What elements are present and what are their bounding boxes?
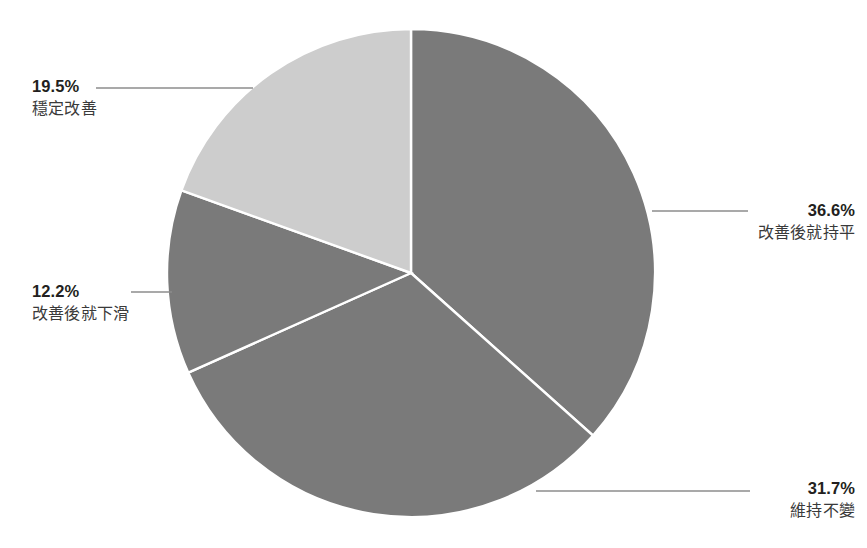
pie-chart: 19.5% 穩定改善 12.2% 改善後就下滑 36.6% 改善後就持平 31.… bbox=[0, 0, 867, 548]
callout-stable-label: 穩定改善 bbox=[32, 99, 97, 119]
callout-decline-percent: 12.2% bbox=[32, 281, 129, 302]
callout-unchanged-percent: 31.7% bbox=[790, 478, 855, 499]
callout-decline: 12.2% 改善後就下滑 bbox=[32, 281, 129, 325]
callout-plateau: 36.6% 改善後就持平 bbox=[758, 200, 855, 244]
callout-stable-percent: 19.5% bbox=[32, 76, 97, 97]
callout-plateau-percent: 36.6% bbox=[758, 200, 855, 221]
callout-unchanged-label: 維持不變 bbox=[790, 501, 855, 521]
pie-slices bbox=[167, 29, 655, 517]
callout-plateau-label: 改善後就持平 bbox=[758, 223, 855, 243]
callout-decline-label: 改善後就下滑 bbox=[32, 304, 129, 324]
callout-stable: 19.5% 穩定改善 bbox=[32, 76, 97, 120]
callout-unchanged: 31.7% 維持不變 bbox=[790, 478, 855, 522]
pie-chart-canvas bbox=[0, 0, 867, 548]
